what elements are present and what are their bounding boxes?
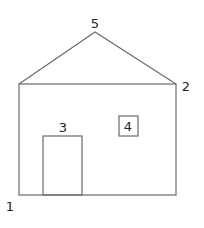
label-apex-5: 5 <box>91 16 99 31</box>
house-diagram: 1 2 3 4 5 <box>0 0 204 228</box>
label-point-1: 1 <box>6 199 14 214</box>
label-door-3: 3 <box>59 120 67 135</box>
label-window-4: 4 <box>124 119 132 134</box>
door-outline <box>43 136 82 195</box>
label-point-2: 2 <box>182 79 190 94</box>
roof-outline <box>19 32 176 84</box>
